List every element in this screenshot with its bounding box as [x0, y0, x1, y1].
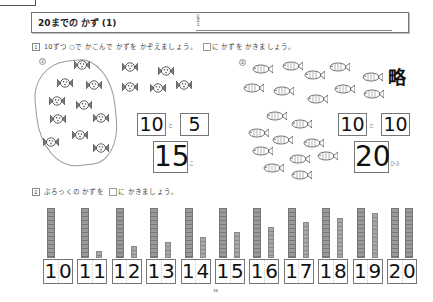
tens-digit: 1 [354, 260, 369, 283]
problem-2-label: ② [239, 59, 246, 66]
candy-icon [86, 80, 102, 90]
fish-icon [271, 135, 293, 145]
corner-frame [0, 0, 36, 6]
ones-digit: 0 [59, 260, 73, 283]
ten-block-bar [81, 208, 89, 258]
ones-block-bar [303, 222, 309, 258]
ten-block-bar [116, 208, 124, 258]
tens-digit: 1 [147, 260, 162, 283]
instruction-2: 2ぶろっくの かずを に かきましょう。 [32, 186, 178, 196]
number-answer-box[interactable]: 19 [353, 259, 383, 284]
tens-digit: 1 [285, 260, 300, 283]
ones-block-bar [337, 218, 343, 258]
candy-icon [50, 114, 66, 124]
fish-icon [316, 151, 338, 161]
name-label: なまえ [196, 15, 200, 27]
ones-digit: 6 [265, 260, 279, 283]
number-answer-box[interactable]: 11 [77, 259, 107, 284]
number-answer-box[interactable]: 12 [112, 259, 142, 284]
tens-digit: 1 [216, 260, 231, 283]
problem-2-total-box[interactable]: 20 [354, 141, 389, 173]
worksheet-header: 20までの かず (1) なまえ [31, 12, 409, 33]
problem-2-ones-box[interactable]: 10 [381, 113, 410, 136]
omitted-mark: 略 [388, 63, 406, 89]
ones-block-bar [131, 246, 137, 258]
number-answer-box[interactable]: 16 [249, 259, 279, 284]
tens-digit: 1 [113, 260, 128, 283]
problem-2-tens-box[interactable]: 10 [338, 113, 367, 136]
ten-block-bar [288, 208, 296, 258]
fish-icon [251, 64, 273, 74]
ten-block-bar [150, 208, 158, 258]
ten-block-bar [405, 208, 413, 258]
fish-icon [362, 89, 384, 99]
problem-1-ones-box[interactable]: 5 [180, 113, 209, 136]
question-number-2: 2 [32, 188, 40, 196]
ones-digit: 0 [403, 260, 417, 283]
problem-1-total-box[interactable]: 15 [153, 141, 188, 173]
number-answer-box[interactable]: 17 [284, 259, 314, 284]
candy-icon [176, 80, 192, 90]
instruction-1-text-a: 10ずつ ○で かこんで かずを かぞえましょう。 [44, 43, 197, 51]
candy-icon [72, 130, 88, 140]
ones-digit: 1 [93, 260, 107, 283]
ten-block-bar [185, 208, 193, 258]
ten-block-bar [391, 208, 399, 258]
page-number: 48 [213, 288, 218, 293]
ones-block-bar [165, 242, 171, 258]
fish-icon [361, 72, 383, 82]
number-answer-box[interactable]: 13 [146, 259, 176, 284]
name-field[interactable] [196, 30, 392, 31]
number-answer-box[interactable]: 14 [181, 259, 211, 284]
number-answer-box[interactable]: 18 [318, 259, 348, 284]
fish-icon [290, 119, 312, 129]
candy-icon [158, 66, 174, 76]
ten-block-bar [357, 208, 365, 258]
ones-digit: 4 [196, 260, 210, 283]
ones-block-bar [200, 237, 206, 258]
ones-digit: 2 [127, 260, 141, 283]
ones-block-bar [268, 227, 274, 258]
ten-block-bar [322, 208, 330, 258]
number-answer-box[interactable]: 10 [43, 259, 73, 284]
question-number-1: 1 [32, 43, 40, 51]
fish-icon [265, 111, 287, 121]
ones-digit: 8 [334, 260, 348, 283]
ones-digit: 3 [162, 260, 176, 283]
tens-digit: 1 [250, 260, 265, 283]
worksheet-title: 20までの かず (1) [38, 16, 116, 29]
fish-icon [242, 83, 264, 93]
candy-icon [49, 96, 65, 106]
fish-icon [281, 61, 303, 71]
number-answer-box[interactable]: 20 [387, 259, 417, 284]
tens-digit: 2 [388, 260, 403, 283]
tens-digit: 1 [319, 260, 334, 283]
ones-block-bar [372, 213, 378, 258]
answer-box-icon [203, 43, 211, 51]
fish-icon [262, 163, 284, 173]
fish-icon [247, 128, 269, 138]
unit-label: ひき [390, 159, 400, 166]
fish-icon [303, 70, 325, 80]
candy-icon [57, 78, 73, 88]
candy-icon [93, 143, 109, 153]
ten-block-bar [219, 208, 227, 258]
number-answer-box[interactable]: 15 [215, 259, 245, 284]
ones-block-bar [96, 251, 102, 258]
instruction-1: 110ずつ ○で かこんで かずを かぞえましょう。 に かずを かきましょう。 [32, 41, 296, 51]
tens-digit: 1 [78, 260, 93, 283]
candy-icon [74, 60, 90, 70]
fish-icon [328, 62, 350, 72]
ones-digit: 5 [231, 260, 245, 283]
tens-digit: 1 [44, 260, 59, 283]
ones-block-bar [234, 232, 240, 258]
candy-icon [43, 137, 59, 147]
candy-icon [76, 100, 92, 110]
candy-icon [122, 82, 138, 92]
connector-to: と [369, 121, 374, 128]
unit-label: こ [189, 159, 194, 166]
problem-1-tens-box[interactable]: 10 [137, 113, 166, 136]
candy-icon [150, 83, 166, 93]
ten-block-bar [253, 208, 261, 258]
ones-digit: 9 [368, 260, 382, 283]
